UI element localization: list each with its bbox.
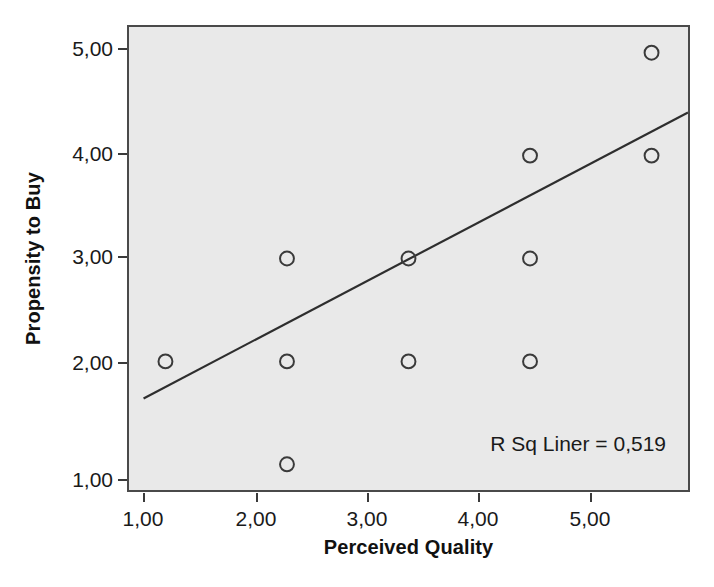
x-tick-mark-5 <box>590 493 592 502</box>
x-tick-label-2: 2,00 <box>236 507 277 531</box>
data-point <box>523 354 537 368</box>
x-tick-mark-2 <box>256 493 258 502</box>
y-axis-title: Propensity to Buy <box>16 25 50 492</box>
plot-area: R Sq Liner = 0,519 <box>127 25 690 492</box>
y-tick-mark-3 <box>118 256 127 258</box>
x-tick-mark-4 <box>478 493 480 502</box>
data-point <box>645 149 659 163</box>
y-tick-label-4: 4,00 <box>72 142 113 166</box>
y-tick-mark-4 <box>118 153 127 155</box>
y-tick-mark-5 <box>118 48 127 50</box>
scatter-plot-figure: Propensity to Buy 5,00 4,00 3,00 2,00 1,… <box>0 0 714 587</box>
y-tick-label-5: 5,00 <box>72 37 113 61</box>
y-tick-mark-1 <box>118 479 127 481</box>
data-point <box>280 457 294 471</box>
data-point <box>280 252 294 266</box>
data-point <box>523 149 537 163</box>
x-tick-label-5: 5,00 <box>570 507 611 531</box>
x-tick-mark-1 <box>143 493 145 502</box>
y-tick-label-2: 2,00 <box>72 351 113 375</box>
data-point <box>523 252 537 266</box>
x-tick-mark-3 <box>367 493 369 502</box>
r-squared-annotation: R Sq Liner = 0,519 <box>490 432 666 456</box>
data-point <box>645 46 659 60</box>
y-tick-mark-2 <box>118 362 127 364</box>
x-tick-label-4: 4,00 <box>458 507 499 531</box>
data-point <box>280 354 294 368</box>
plot-canvas <box>129 27 688 490</box>
x-tick-label-1: 1,00 <box>123 507 164 531</box>
y-tick-label-1: 1,00 <box>72 468 113 492</box>
x-axis-title: Perceived Quality <box>127 536 690 559</box>
data-point <box>402 354 416 368</box>
y-tick-label-3: 3,00 <box>72 245 113 269</box>
x-tick-label-3: 3,00 <box>347 507 388 531</box>
data-point <box>159 354 173 368</box>
